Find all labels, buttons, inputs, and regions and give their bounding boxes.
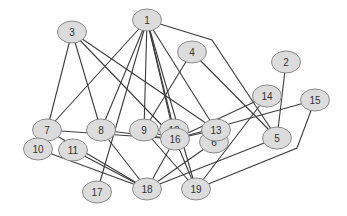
node-4: 4 — [178, 41, 207, 63]
node-label: 18 — [141, 184, 153, 195]
node-9: 9 — [130, 119, 159, 141]
node-label: 2 — [283, 57, 289, 68]
node-label: 3 — [69, 27, 75, 38]
node-label: 17 — [91, 187, 103, 198]
node-label: 10 — [32, 144, 44, 155]
node-3: 3 — [58, 21, 87, 43]
node-label: 15 — [309, 95, 321, 106]
node-label: 14 — [261, 91, 273, 102]
node-label: 19 — [190, 184, 202, 195]
node-label: 16 — [169, 134, 181, 145]
node-label: 9 — [141, 125, 147, 136]
node-8: 8 — [87, 119, 116, 141]
edge-1-13 — [147, 20, 216, 130]
node-label: 5 — [274, 133, 280, 144]
edge-1-8 — [101, 20, 147, 130]
node-2: 2 — [272, 51, 301, 73]
node-label: 11 — [68, 145, 79, 156]
node-label: 8 — [98, 125, 104, 136]
node-1: 1 — [133, 9, 162, 31]
node-5: 5 — [263, 127, 292, 149]
edge-1-9 — [144, 20, 147, 130]
node-label: 4 — [189, 47, 195, 58]
node-label: 13 — [210, 125, 222, 136]
edge-3-7 — [47, 32, 72, 130]
node-label: 1 — [144, 15, 150, 26]
graph-diagram: 12345678910111213141516171819 — [0, 0, 347, 216]
node-14: 14 — [253, 85, 282, 107]
node-13: 13 — [202, 119, 231, 141]
node-17: 17 — [83, 181, 112, 203]
node-19: 19 — [182, 178, 211, 200]
node-11: 11 — [59, 139, 88, 161]
node-label: 7 — [44, 125, 50, 136]
node-10: 10 — [24, 138, 53, 160]
edge-4-9 — [144, 52, 192, 130]
node-15: 15 — [301, 89, 330, 111]
node-16: 16 — [161, 128, 190, 150]
node-18: 18 — [133, 178, 162, 200]
